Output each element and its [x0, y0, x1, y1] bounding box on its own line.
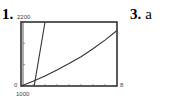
graph-window: [0, 0, 169, 101]
plot-area: [21, 22, 117, 86]
